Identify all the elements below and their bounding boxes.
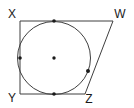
circle-center-point [52, 56, 55, 59]
tangent-point-top-icon [52, 19, 56, 23]
vertex-label-x: X [8, 7, 16, 21]
geometry-canvas: X W Y Z [0, 0, 134, 108]
vertex-label-w: W [114, 7, 126, 21]
vertex-label-z: Z [85, 92, 92, 106]
vertex-label-y: Y [8, 91, 16, 105]
tangent-point-left-icon [18, 56, 22, 60]
tangent-point-bottom-icon [52, 92, 56, 96]
tangent-point-right-icon [86, 69, 90, 73]
quadrilateral-wxyz [20, 21, 113, 94]
geometry-figure: X W Y Z [0, 0, 134, 108]
